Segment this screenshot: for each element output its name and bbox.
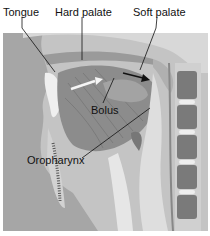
label-bolus: Bolus	[91, 104, 119, 116]
label-hard-palate: Hard palate	[55, 6, 112, 18]
bolus-leader	[103, 78, 114, 103]
label-tongue: Tongue	[3, 6, 39, 18]
tongue-leader	[22, 17, 55, 72]
leader-lines	[0, 0, 210, 236]
label-oropharynx: Oropharynx	[27, 154, 84, 166]
label-soft-palate: Soft palate	[133, 6, 186, 18]
soft-palate-leader	[140, 17, 157, 70]
